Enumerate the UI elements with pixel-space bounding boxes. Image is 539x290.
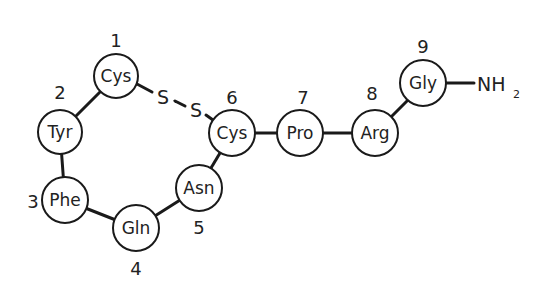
residue-name: Cys — [217, 123, 248, 143]
residue-index: 5 — [193, 217, 204, 238]
residue-1: Cys 1 — [94, 30, 138, 99]
residue-name: Pro — [287, 123, 314, 143]
residue-name: Tyr — [47, 122, 73, 142]
bond-cys1-s — [137, 84, 152, 92]
residue-index: 3 — [27, 191, 38, 212]
residue-index: 4 — [130, 258, 141, 279]
sulfur-atom-2: S — [190, 99, 202, 121]
residue-9: Gly 9 — [400, 36, 446, 107]
residue-2: Tyr 2 — [38, 82, 82, 155]
bond-s-cys6 — [206, 115, 213, 120]
sulfur-atom-1: S — [157, 86, 169, 108]
residue-index: 2 — [54, 82, 65, 103]
residue-index: 6 — [226, 87, 237, 108]
terminal-subscript: 2 — [513, 88, 520, 101]
residue-7: Pro 7 — [277, 87, 323, 157]
peptide-structure-diagram: S S Cys 1 Tyr 2 Phe 3 Gln 4 Asn 5 Cys 6 … — [0, 0, 539, 290]
residue-name: Arg — [360, 123, 389, 143]
residue-6: Cys 6 — [209, 87, 255, 157]
residue-8: Arg 8 — [352, 83, 398, 157]
residue-index: 9 — [417, 36, 428, 57]
residue-name: Phe — [49, 190, 81, 210]
residue-name: Gly — [409, 73, 437, 93]
bond-s-s — [175, 101, 185, 106]
residue-5: Asn 5 — [176, 165, 222, 238]
terminal-group-label: NH — [477, 73, 506, 95]
residue-name: Asn — [183, 178, 214, 198]
residue-index: 1 — [110, 30, 121, 51]
residue-name: Gln — [122, 218, 151, 238]
terminal-amide-group: NH 2 — [477, 73, 520, 101]
residue-4: Gln 4 — [113, 205, 159, 279]
residue-name: Cys — [101, 66, 132, 86]
residue-3: Phe 3 — [27, 177, 88, 223]
residue-index: 8 — [366, 83, 377, 104]
residue-index: 7 — [297, 87, 308, 108]
